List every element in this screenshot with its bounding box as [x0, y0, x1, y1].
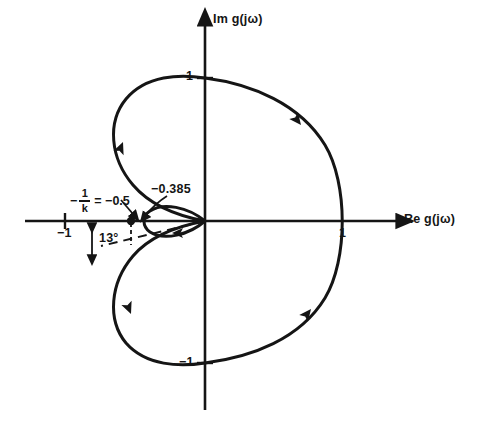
- phase-margin-label: 13°: [99, 231, 119, 245]
- tick-label-re-minus1: −1: [57, 226, 72, 240]
- gain-point-minus-sign: −: [70, 194, 77, 208]
- tick-label-im-plus1: 1: [186, 69, 193, 83]
- gain-point-equals: = −0.5: [94, 194, 129, 208]
- arrowhead-lower-left: [121, 301, 136, 316]
- tick-label-im-minus1: −1: [179, 355, 194, 369]
- real-axis-label: Re g(jω): [404, 212, 455, 226]
- gain-point-fraction: 1 k: [79, 188, 90, 214]
- gain-point-numerator: 1: [82, 188, 88, 200]
- imaginary-axis-label: Im g(jω): [213, 12, 263, 26]
- gain-point-denominator: k: [82, 202, 88, 214]
- crossing-value-label: −0.385: [151, 182, 191, 196]
- nyquist-plot-figure: Im g(jω) Re g(jω) −1 1 1 −1 −0.385 − 1 k…: [0, 0, 478, 428]
- gain-point-label: − 1 k = −0.5: [70, 188, 130, 214]
- tick-label-re-plus1: 1: [339, 226, 346, 240]
